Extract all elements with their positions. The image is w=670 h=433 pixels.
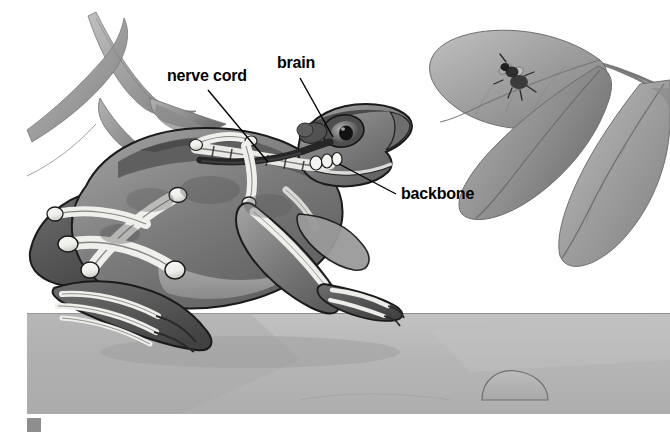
label-brain: brain bbox=[277, 55, 315, 71]
label-backbone: backbone bbox=[401, 186, 474, 202]
illustration-canvas bbox=[0, 0, 670, 433]
corner-marker bbox=[27, 418, 41, 432]
frog-anatomy-figure bbox=[0, 0, 670, 433]
label-nerve-cord: nerve cord bbox=[167, 68, 247, 84]
